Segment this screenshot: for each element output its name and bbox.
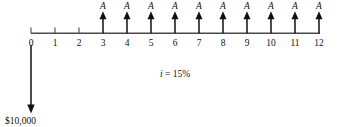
tick-label-3: 3 (101, 38, 106, 48)
inflow-arrow-3 (100, 11, 107, 33)
interest-rate-label: i = 15% (160, 69, 190, 79)
inflow-label-4: A (123, 1, 130, 11)
inflow-arrows (100, 11, 323, 33)
inflow-arrow-6 (172, 11, 179, 33)
tick-label-7: 7 (197, 38, 202, 48)
tick-label-4: 4 (125, 38, 130, 48)
inflow-label-6: A (171, 1, 178, 11)
inflow-label-11: A (291, 1, 298, 11)
tick-label-1: 1 (53, 38, 58, 48)
outflow-amount-label: $10,000 (5, 116, 36, 126)
inflow-label-10: A (267, 1, 274, 11)
tick-label-8: 8 (221, 38, 226, 48)
inflow-label-9: A (243, 1, 250, 11)
inflow-label-5: A (147, 1, 154, 11)
inflow-arrow-8 (220, 11, 227, 33)
timeline-tick-labels: 0 1 2 3 4 5 6 7 8 9 10 11 12 (29, 38, 324, 48)
inflow-labels: A A A A A A A A A A (99, 1, 322, 11)
tick-label-6: 6 (173, 38, 178, 48)
inflow-arrow-5 (148, 11, 155, 33)
cash-flow-diagram-canvas: A A A A A A A A A A 0 1 2 3 4 5 6 7 8 9 … (0, 0, 342, 127)
inflow-arrow-9 (244, 11, 251, 33)
inflow-arrow-10 (268, 11, 275, 33)
outflow-arrow-0 (27, 45, 34, 114)
interest-rate-equals: = (163, 69, 173, 79)
tick-label-2: 2 (77, 38, 82, 48)
inflow-arrow-4 (124, 11, 131, 33)
inflow-arrow-7 (196, 11, 203, 33)
inflow-label-7: A (195, 1, 202, 11)
tick-label-12: 12 (314, 38, 324, 48)
inflow-arrow-12 (316, 11, 323, 33)
inflow-label-3: A (99, 1, 106, 11)
tick-label-10: 10 (266, 38, 276, 48)
inflow-arrow-11 (292, 11, 299, 33)
tick-label-11: 11 (290, 38, 299, 48)
inflow-label-12: A (315, 1, 322, 11)
cash-flow-diagram: A A A A A A A A A A 0 1 2 3 4 5 6 7 8 9 … (0, 0, 342, 127)
timeline-ticks (31, 27, 79, 33)
tick-label-9: 9 (245, 38, 250, 48)
inflow-label-8: A (219, 1, 226, 11)
tick-label-5: 5 (149, 38, 154, 48)
interest-rate-value: 15% (173, 69, 191, 79)
